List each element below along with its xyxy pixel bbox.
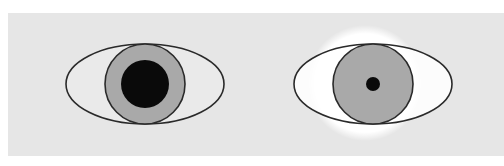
eye-constricted: [294, 25, 452, 141]
pupil-large: [121, 60, 169, 108]
pupil-small: [366, 77, 380, 91]
eyes-diagram: [0, 0, 504, 166]
eye-dilated: [66, 44, 224, 124]
